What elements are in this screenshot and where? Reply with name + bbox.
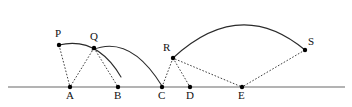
- point-dot-S: [303, 48, 307, 52]
- arc-centered-at-B: [92, 46, 162, 86]
- point-label-B: B: [114, 90, 121, 101]
- point-label-P: P: [55, 28, 61, 39]
- figure-canvas: [0, 0, 352, 107]
- point-label-A: A: [66, 90, 74, 101]
- radius-Q-to-A: [70, 48, 94, 87]
- point-label-D: D: [186, 90, 194, 101]
- radius-P-to-A: [59, 45, 70, 87]
- point-dot-Q: [92, 46, 96, 50]
- radius-R-to-C: [162, 58, 173, 87]
- point-dot-P: [57, 43, 61, 47]
- arc-centered-at-A: [59, 43, 121, 77]
- point-label-S: S: [308, 36, 314, 47]
- figure-container: ABCDEPQRS: [0, 0, 352, 107]
- radii-group: [59, 45, 305, 87]
- point-label-C: C: [158, 90, 165, 101]
- point-label-Q: Q: [90, 31, 98, 42]
- point-label-R: R: [163, 42, 170, 53]
- arc-centered-at-E: [173, 25, 305, 58]
- radius-R-to-D: [173, 58, 190, 87]
- radius-R-to-E: [175, 59, 242, 87]
- point-label-E: E: [238, 90, 245, 101]
- point-dot-R: [171, 56, 175, 60]
- radius-S-to-E: [242, 50, 305, 87]
